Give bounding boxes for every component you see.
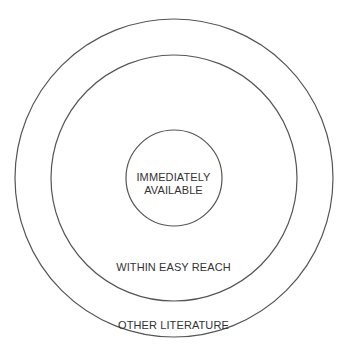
inner-label-line1: IMMEDIATELY: [0, 170, 347, 184]
inner-label-line2: AVAILABLE: [0, 183, 347, 197]
outer-ring-label: OTHER LITERATURE: [0, 318, 347, 332]
middle-ring-label: WITHIN EASY REACH: [0, 260, 347, 274]
